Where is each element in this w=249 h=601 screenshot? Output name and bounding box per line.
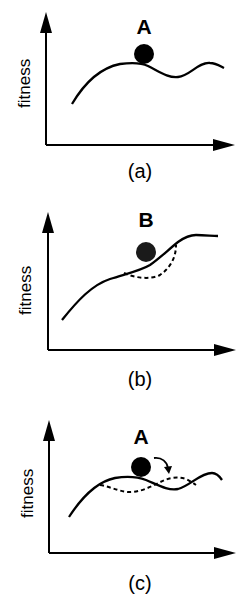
x-axis xyxy=(48,344,236,356)
x-axis-arrow-icon xyxy=(213,139,235,151)
panel-a: fitness A (a) xyxy=(15,12,235,182)
fitness-curve xyxy=(72,63,224,104)
x-axis xyxy=(46,139,235,151)
y-axis-label: fitness xyxy=(16,266,35,315)
y-axis-label: fitness xyxy=(18,469,37,518)
ball-a xyxy=(134,44,154,64)
y-axis-arrow-icon xyxy=(42,212,54,233)
y-axis-label: fitness xyxy=(15,59,34,108)
point-label: A xyxy=(133,425,148,448)
panel-caption: (a) xyxy=(128,160,152,182)
fitness-curve xyxy=(69,473,222,517)
panel-caption: (c) xyxy=(128,572,151,594)
panel-c: fitness A (c) xyxy=(18,420,236,594)
panel-caption: (b) xyxy=(128,368,152,390)
fitness-landscape-figure: fitness A (a) fitness B (b) fitness xyxy=(0,0,249,601)
x-axis-arrow-icon xyxy=(214,547,236,559)
y-axis xyxy=(40,12,52,145)
y-axis xyxy=(42,212,54,350)
y-axis-arrow-icon xyxy=(43,420,55,441)
point-label: A xyxy=(136,15,151,38)
point-label: B xyxy=(138,208,153,231)
ball-b xyxy=(136,242,156,262)
panel-b: fitness B (b) xyxy=(16,208,236,390)
curved-arrow-head-icon xyxy=(164,466,172,474)
x-axis-arrow-icon xyxy=(214,344,236,356)
y-axis xyxy=(43,420,55,553)
curved-arrow-icon xyxy=(154,458,168,468)
ball-c xyxy=(131,457,151,477)
y-axis-arrow-icon xyxy=(40,12,52,33)
x-axis xyxy=(49,547,236,559)
